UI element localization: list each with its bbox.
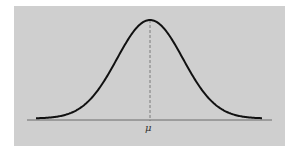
mean-label: μ	[145, 122, 152, 133]
normal-curve	[36, 20, 262, 118]
